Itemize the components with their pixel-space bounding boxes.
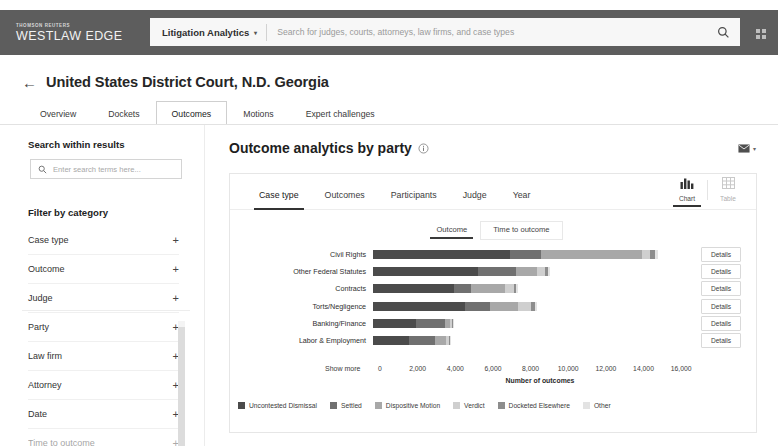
bar-segment[interactable] [471, 284, 505, 293]
filter-item-attorney[interactable]: Attorney + [28, 371, 179, 400]
legend-item[interactable]: Verdict [453, 402, 484, 409]
filter-item-case-type[interactable]: Case type + [28, 226, 179, 255]
analytics-panel: Case type Outcomes Participants Judge Ye… [229, 173, 757, 433]
sidebar-scrollbar-thumb[interactable] [178, 327, 185, 446]
bar-segment[interactable] [373, 336, 409, 345]
tab-label: Expert challenges [306, 109, 375, 119]
bar-segment[interactable] [655, 250, 658, 259]
view-toggle-table[interactable]: Table [708, 175, 748, 206]
legend-item[interactable]: Docketed Elsewhere [498, 402, 570, 409]
bar-segment[interactable] [435, 336, 446, 345]
stacked-bar[interactable] [373, 250, 658, 259]
category-label: Contracts [230, 284, 373, 293]
filter-item-time-to-outcome[interactable]: Time to outcome + [28, 429, 179, 446]
bar-segment[interactable] [465, 302, 489, 311]
apps-icon[interactable] [756, 27, 768, 45]
legend-item[interactable]: Uncontested Dismissal [238, 402, 317, 409]
bar-segment[interactable] [453, 319, 454, 328]
bar-segment[interactable] [409, 336, 435, 345]
bar-segment[interactable] [510, 250, 540, 259]
bar-segment[interactable] [537, 267, 545, 276]
legend-item[interactable]: Other [583, 402, 611, 409]
axis-tick: 6,000 [484, 365, 501, 372]
axis-tick: 0 [378, 365, 382, 372]
panel-tab-year[interactable]: Year [500, 190, 544, 209]
filter-item-outcome[interactable]: Outcome + [28, 255, 179, 284]
brand-logo[interactable]: THOMSON REUTERS WESTLAW EDGE [16, 22, 136, 44]
filter-list: Case type + Outcome + Judge + Party + La… [0, 226, 205, 446]
bar-segment[interactable] [478, 267, 516, 276]
stacked-bar[interactable] [373, 284, 518, 293]
filter-label: Time to outcome [28, 438, 95, 446]
panel-tab-judge[interactable]: Judge [450, 190, 500, 209]
bar-segment[interactable] [373, 319, 416, 328]
axis-tick: 4,000 [447, 365, 464, 372]
panel-tab-participants[interactable]: Participants [378, 190, 450, 209]
details-button[interactable]: Details [701, 281, 741, 296]
filter-item-party[interactable]: Party + [28, 313, 179, 342]
show-more-link[interactable]: Show more [325, 365, 360, 372]
category-label: Banking/Finance [230, 319, 373, 328]
bar-segment[interactable] [490, 302, 518, 311]
bar-segment[interactable] [450, 336, 451, 345]
brand-eyebrow: THOMSON REUTERS [16, 22, 136, 29]
bar-segment[interactable] [373, 250, 510, 259]
filter-label: Party [28, 322, 49, 332]
legend-item[interactable]: Settled [330, 402, 362, 409]
search-within-results-input[interactable] [47, 165, 181, 174]
bar-segment[interactable] [548, 267, 550, 276]
metric-toggle-time-to-outcome[interactable]: Time to outcome [480, 221, 562, 240]
bar-segment[interactable] [541, 250, 643, 259]
page-header: ← United States District Court, N.D. Geo… [22, 74, 329, 90]
section-title: Outcome analytics by party [229, 140, 429, 156]
global-search-button[interactable] [706, 18, 740, 46]
view-toggle-label: Table [720, 195, 736, 202]
bar-segment[interactable] [516, 284, 518, 293]
stacked-bar[interactable] [373, 267, 550, 276]
filter-item-date[interactable]: Date + [28, 400, 179, 429]
bar-segment[interactable] [642, 250, 650, 259]
details-button[interactable]: Details [701, 333, 741, 348]
category-label: Labor & Employment [230, 336, 373, 345]
legend-swatch [583, 402, 590, 409]
stacked-bar[interactable] [373, 302, 537, 311]
service-selector-label: Litigation Analytics [162, 27, 249, 38]
global-search-input[interactable] [267, 27, 706, 37]
metric-toggle-outcome[interactable]: Outcome [423, 221, 480, 240]
bar-segment[interactable] [373, 284, 454, 293]
details-button[interactable]: Details [701, 316, 741, 331]
stacked-bar[interactable] [373, 336, 451, 345]
global-search-bar: Litigation Analytics ▾ [150, 18, 740, 46]
bar-chart-icon [680, 175, 694, 193]
service-selector[interactable]: Litigation Analytics ▾ [150, 18, 266, 46]
legend-item[interactable]: Dispositive Motion [375, 402, 440, 409]
info-icon[interactable] [418, 143, 429, 154]
bar-segment[interactable] [535, 302, 537, 311]
chart-row: Civil RightsDetails [230, 246, 758, 262]
bar-segment[interactable] [516, 267, 537, 276]
tab-label: Overview [40, 109, 76, 119]
sidebar-scrollbar[interactable] [178, 321, 185, 446]
chart-row: Banking/FinanceDetails [230, 316, 758, 332]
filter-item-judge[interactable]: Judge + [28, 284, 179, 313]
details-button[interactable]: Details [701, 264, 741, 279]
bar-segment[interactable] [505, 284, 514, 293]
filter-item-law-firm[interactable]: Law firm + [28, 342, 179, 371]
details-button[interactable]: Details [701, 247, 741, 262]
panel-tab-outcomes[interactable]: Outcomes [312, 190, 378, 209]
bar-segment[interactable] [373, 302, 465, 311]
bar-segment[interactable] [416, 319, 444, 328]
legend-swatch [498, 402, 505, 409]
bar-segment[interactable] [518, 302, 531, 311]
panel-tab-case-type[interactable]: Case type [246, 190, 312, 209]
legend-swatch [238, 402, 245, 409]
email-export-button[interactable]: ▾ [738, 139, 756, 157]
bar-segment[interactable] [454, 284, 471, 293]
bar-segment[interactable] [373, 267, 478, 276]
view-toggle-chart[interactable]: Chart [667, 175, 707, 206]
tab-label: Dockets [108, 109, 139, 119]
panel-tab-label: Year [513, 190, 531, 200]
stacked-bar[interactable] [373, 319, 454, 328]
back-arrow-icon[interactable]: ← [22, 75, 37, 90]
details-button[interactable]: Details [701, 299, 741, 314]
